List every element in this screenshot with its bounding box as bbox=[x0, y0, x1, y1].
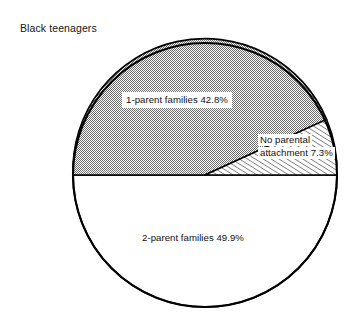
pie-chart-graphic bbox=[0, 0, 358, 326]
slice-label-no-parental-attachment-line1: No parental bbox=[258, 134, 312, 146]
pie-chart-figure: Black teenagers 1-parent families 42.8% … bbox=[0, 0, 358, 326]
slice-label-two-parent-families: 2-parent families 49.9% bbox=[139, 231, 247, 245]
slice-label-no-parental-attachment-line2: attachment 7.3% bbox=[258, 147, 335, 159]
slice-label-one-parent-families: 1-parent families 42.8% bbox=[122, 92, 232, 108]
slice-label-no-parental-attachment: No parental attachment 7.3% bbox=[258, 134, 344, 160]
